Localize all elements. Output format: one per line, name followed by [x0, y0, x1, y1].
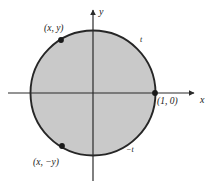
- point-one-zero-label: (1, 0): [157, 97, 178, 107]
- arc-length-neg-t-label: −t: [126, 146, 134, 154]
- figure-canvas: [0, 0, 212, 183]
- point-x-neg-y-label: (x, −y): [33, 158, 59, 168]
- point-x-y-label: (x, y): [44, 24, 64, 34]
- point-x-y-marker: [58, 37, 64, 43]
- arc-length-t-label: t: [140, 36, 142, 44]
- y-axis-label: y: [99, 7, 103, 17]
- x-axis-label: x: [200, 95, 204, 105]
- unit-circle-figure: (x, y) (x, −y) (1, 0) x y t −t: [0, 0, 212, 183]
- point-x-neg-y-marker: [59, 143, 65, 149]
